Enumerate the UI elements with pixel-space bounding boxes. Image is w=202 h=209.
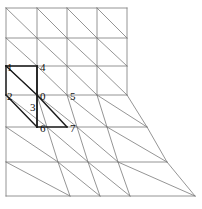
node-label-2: 2: [7, 90, 13, 102]
node-label-5: 5: [70, 90, 76, 102]
node-label-7: 7: [70, 122, 76, 134]
node-label-3: 3: [30, 101, 36, 113]
node-label-4: 4: [40, 61, 46, 73]
node-label-1: 1: [7, 61, 13, 73]
node-label-6: 6: [40, 122, 46, 134]
node-label-0: 0: [40, 90, 46, 102]
mesh-figure: 01234567: [0, 0, 202, 209]
mesh-diagram: 01234567: [0, 0, 202, 209]
